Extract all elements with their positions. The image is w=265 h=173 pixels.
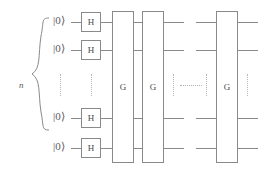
wire-segment bbox=[164, 22, 184, 23]
register-size-label: n bbox=[19, 80, 24, 90]
wire-segment bbox=[101, 22, 112, 23]
wire-segment bbox=[134, 50, 142, 51]
wire-segment bbox=[134, 148, 142, 149]
wire-segment bbox=[196, 148, 216, 149]
wire-segment bbox=[238, 118, 258, 119]
wire-segment bbox=[238, 50, 258, 51]
hadamard-gate[interactable]: H bbox=[81, 40, 101, 60]
wire-segment bbox=[164, 50, 184, 51]
grover-operator-gate[interactable]: G bbox=[142, 11, 164, 163]
qubit-state-3: |0⟩ bbox=[53, 140, 65, 153]
wire-segment bbox=[71, 22, 81, 23]
qubit-state-0: |0⟩ bbox=[53, 14, 65, 27]
register-brace bbox=[27, 16, 51, 132]
wire-segment bbox=[238, 148, 258, 149]
horizontal-ellipsis-icon bbox=[180, 85, 202, 86]
hadamard-gate[interactable]: H bbox=[81, 12, 101, 32]
wire-segment bbox=[196, 22, 216, 23]
wire-segment bbox=[71, 148, 81, 149]
wire-segment bbox=[71, 50, 81, 51]
wire-segment bbox=[196, 118, 216, 119]
wire-segment bbox=[71, 118, 81, 119]
hadamard-gate[interactable]: H bbox=[81, 138, 101, 158]
qubit-state-2: |0⟩ bbox=[53, 110, 65, 123]
wire-segment bbox=[164, 118, 184, 119]
vertical-ellipsis-icon bbox=[206, 74, 207, 96]
wire-segment bbox=[101, 148, 112, 149]
wire-segment bbox=[164, 148, 184, 149]
wire-segment bbox=[196, 50, 216, 51]
grover-operator-gate[interactable]: G bbox=[216, 11, 238, 163]
wire-segment bbox=[238, 22, 258, 23]
vertical-ellipsis-icon bbox=[247, 74, 248, 96]
vertical-ellipsis-icon bbox=[91, 74, 92, 96]
qubit-state-1: |0⟩ bbox=[53, 42, 65, 55]
vertical-ellipsis-icon bbox=[173, 74, 174, 96]
wire-segment bbox=[134, 22, 142, 23]
wire-segment bbox=[101, 118, 112, 119]
hadamard-gate[interactable]: H bbox=[81, 108, 101, 128]
grover-operator-gate[interactable]: G bbox=[112, 11, 134, 163]
quantum-circuit-diagram: n |0⟩ H |0⟩ H |0⟩ H |0⟩ H G G G bbox=[0, 0, 265, 173]
wire-segment bbox=[134, 118, 142, 119]
wire-segment bbox=[101, 50, 112, 51]
vertical-ellipsis-icon bbox=[60, 74, 61, 96]
